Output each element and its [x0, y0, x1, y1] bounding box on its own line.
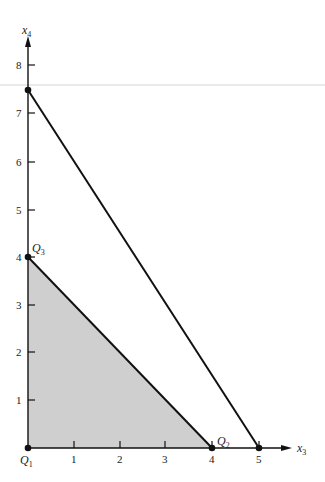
x-tick-label: 5: [256, 453, 262, 465]
vertex-x-intercept: [256, 445, 263, 452]
x-axis-arrow-icon: [281, 445, 292, 451]
lp-feasible-region-diagram: 1 2 3 4 5 6 7 8 1 2 3 4 5 x4 x3 Q1 Q2 Q3: [0, 0, 325, 482]
label-q3: Q3: [32, 241, 45, 257]
y-tick-label: 5: [16, 204, 22, 216]
y-tick-label: 8: [16, 59, 22, 71]
y-tick-label: 7: [16, 107, 22, 119]
vertex-y-intercept: [25, 87, 32, 94]
y-tick-label: 4: [16, 251, 22, 263]
y-tick-label: 3: [16, 299, 22, 311]
y-tick-label: 6: [16, 156, 22, 168]
x-tick-label: 2: [117, 453, 123, 465]
x-tick-label: 1: [71, 453, 77, 465]
x-axis-label: x3: [296, 441, 306, 457]
label-q1: Q1: [20, 453, 33, 469]
label-q2: Q2: [217, 434, 230, 450]
vertex-q2: [209, 445, 216, 452]
vertex-q3: [25, 254, 32, 261]
x-tick-label: 3: [162, 453, 168, 465]
y-axis-label: x4: [21, 23, 31, 39]
vertex-q1: [25, 445, 32, 452]
y-tick-label: 2: [16, 346, 22, 358]
y-tick-label: 1: [16, 394, 22, 406]
x-tick-label: 4: [209, 453, 215, 465]
